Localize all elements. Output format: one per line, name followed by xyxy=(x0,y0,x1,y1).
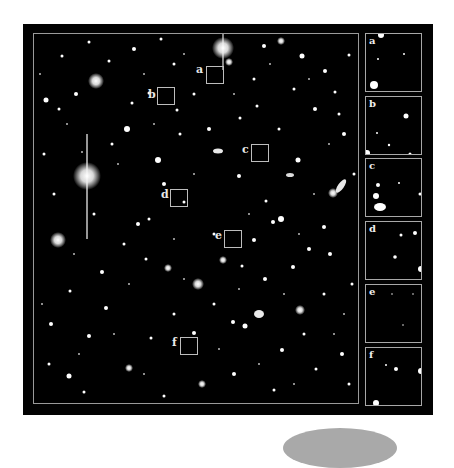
inset-label-d: d xyxy=(369,223,376,234)
inset-a: a xyxy=(365,33,422,92)
inset-label-e: e xyxy=(369,286,375,297)
region-box-e xyxy=(224,230,242,248)
region-box-b xyxy=(157,87,175,105)
region-label-f: f xyxy=(172,337,177,348)
inset-label-f: f xyxy=(369,349,373,360)
inset-label-a: a xyxy=(369,35,375,46)
region-box-f xyxy=(180,337,198,355)
gray-ellipse-shape xyxy=(283,428,397,468)
region-box-a xyxy=(206,66,224,84)
inset-d: d xyxy=(365,221,422,280)
region-label-c: c xyxy=(242,144,249,155)
region-label-e: e xyxy=(215,230,222,241)
inset-e: e xyxy=(365,284,422,343)
deep-field-image: a b c d e f xyxy=(33,33,359,404)
inset-b: b xyxy=(365,96,422,155)
inset-label-c: c xyxy=(369,160,375,171)
inset-label-b: b xyxy=(369,98,376,109)
figure-panel: a b c d e f a b c d e f xyxy=(23,24,433,415)
inset-c: c xyxy=(365,158,422,217)
region-box-c xyxy=(251,144,269,162)
region-label-a: a xyxy=(196,64,203,75)
inset-f: f xyxy=(365,347,422,406)
region-label-b: b xyxy=(148,89,156,100)
region-label-d: d xyxy=(161,189,169,200)
region-box-d xyxy=(170,189,188,207)
